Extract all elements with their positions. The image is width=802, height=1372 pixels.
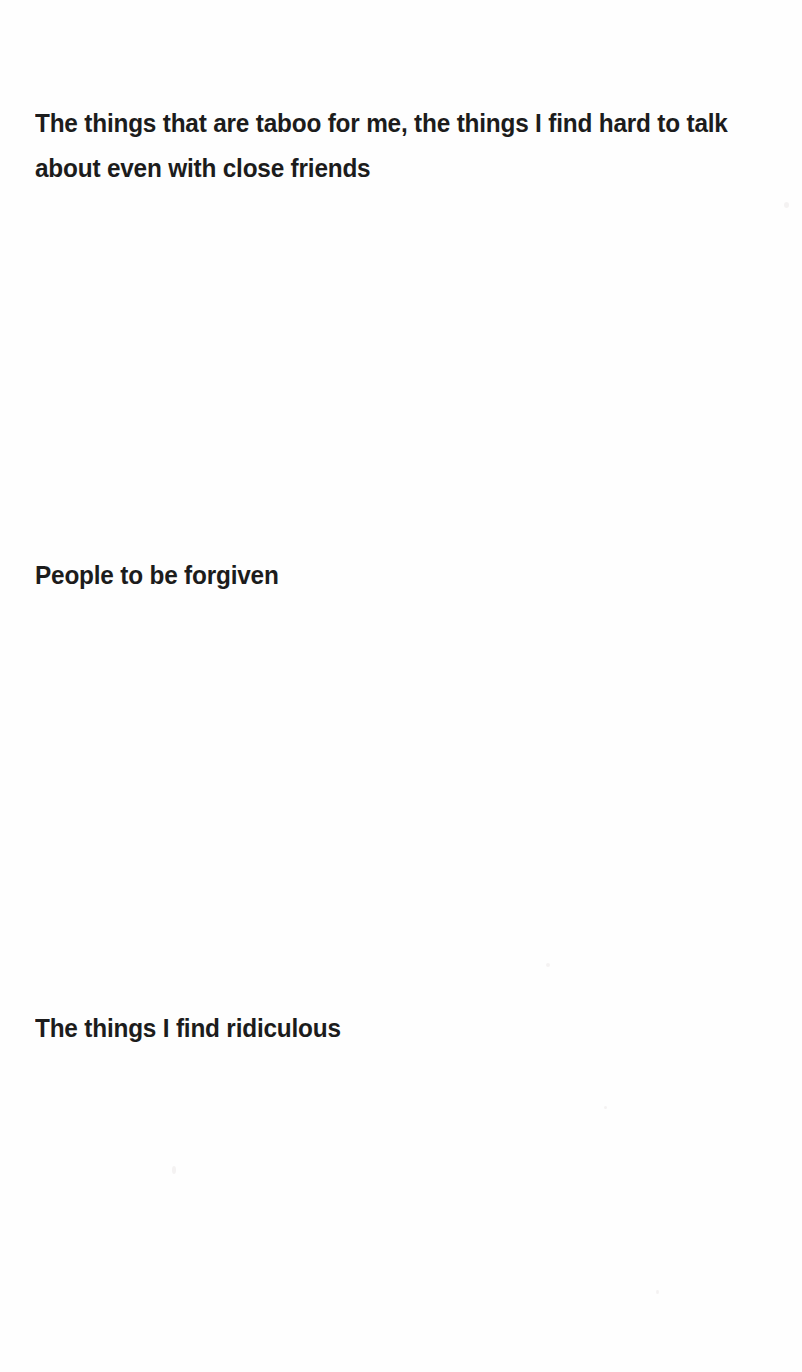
page-surface	[0, 0, 802, 1372]
section-heading-taboo: The things that are taboo for me, the th…	[35, 101, 761, 191]
scanned-page: The things that are taboo for me, the th…	[0, 0, 802, 1372]
section-heading-forgiven: People to be forgiven	[35, 553, 513, 598]
section-heading-ridiculous: The things I find ridiculous	[35, 1006, 513, 1051]
